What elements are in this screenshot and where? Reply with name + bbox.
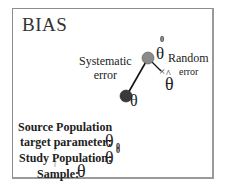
sample-label: Sample: (37, 167, 79, 182)
sample-legend-theta-symbol: θ (77, 161, 86, 182)
random-error-label-line1: Random (168, 51, 209, 66)
true-theta-symbol: θ (130, 92, 138, 110)
study-population-text: Study Population (19, 151, 108, 165)
study-legend-theta-superscript: 0 (116, 146, 120, 155)
sample-text: Sample (37, 167, 75, 181)
source-population-label: Source Population (18, 120, 112, 135)
target-parameter-label: target parameter: (20, 135, 112, 150)
target-parameter-text: target parameter (20, 135, 108, 149)
study-population-label: Study Population: (19, 151, 112, 166)
sample-theta-symbol: θ (165, 74, 174, 95)
study-parameter-node (142, 52, 154, 64)
study-theta-superscript: 0 (160, 35, 164, 44)
study-legend-theta-symbol: θ (105, 148, 114, 169)
systematic-label-line1: Systematic (79, 54, 132, 68)
random-error-label-line2: error (179, 66, 198, 77)
systematic-error-label: Systematic error (79, 54, 132, 82)
study-theta-symbol: θ (156, 44, 164, 64)
systematic-label-line2: error (79, 68, 132, 82)
diagram-title: BIAS (22, 14, 67, 36)
